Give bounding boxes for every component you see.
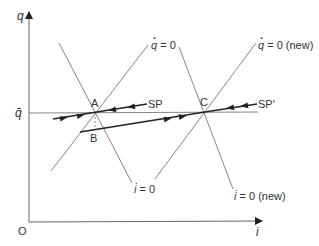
qdot-zero-new-label: q = 0 (new) (258, 40, 313, 51)
point-b-label: B (90, 133, 97, 144)
phase-diagram (0, 0, 319, 246)
saddle-path-new-label: SP′ (258, 99, 275, 110)
y-axis-label: q (17, 10, 24, 22)
point-a-label: A (91, 98, 98, 109)
origin-label: O (18, 226, 27, 237)
x-axis-label: i (256, 226, 259, 238)
arrow-icon (164, 115, 173, 122)
idot-zero-label: i̇ = 0 (134, 184, 155, 195)
qbar-label: q̄ (15, 107, 22, 119)
saddle-path-label: SP (148, 99, 163, 110)
x-axis (29, 221, 262, 222)
qdot-zero-new-line (155, 43, 256, 179)
path-b-to-c (80, 112, 205, 132)
qdot-zero-label: q = 0 (151, 40, 176, 51)
point-c-label: C (200, 97, 208, 108)
arrow-icon (240, 102, 249, 109)
arrow-icon (179, 113, 188, 120)
arrow-icon (60, 115, 69, 122)
idot-zero-new-line (179, 47, 233, 189)
arrow-icon (226, 104, 235, 111)
arrow-icon (127, 103, 136, 110)
qbar-line (29, 112, 258, 113)
idot-zero-new-label: i̇ = 0 (new) (234, 191, 286, 202)
